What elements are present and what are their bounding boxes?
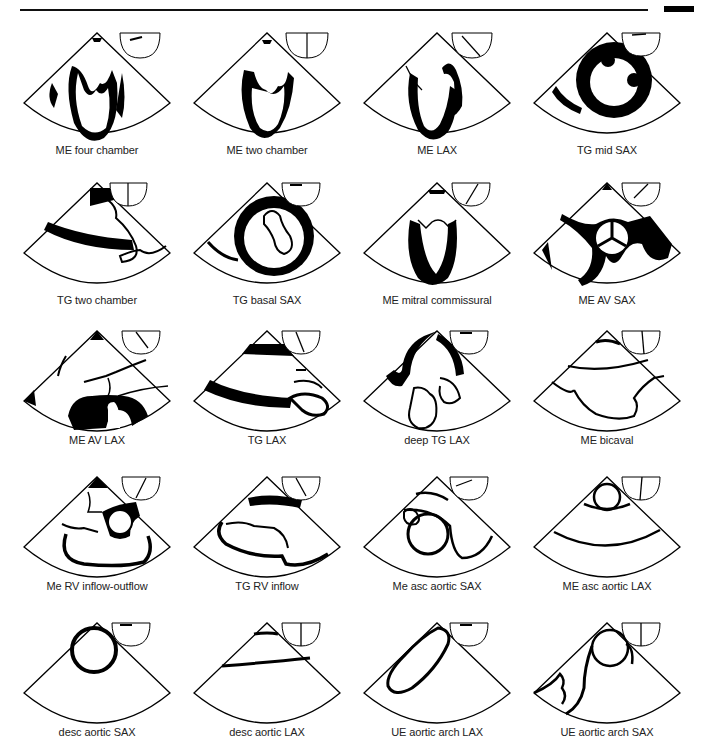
ultrasound-sector-icon: [12, 618, 182, 738]
view-label: Me asc aortic SAX: [352, 580, 522, 592]
ultrasound-sector-icon: [182, 618, 352, 738]
view-label: deep TG LAX: [352, 434, 522, 446]
tee-views-grid: ME four chamber ME two chamber ME LAX: [0, 0, 710, 753]
view-me-av-sax: ME AV SAX: [522, 178, 692, 318]
ultrasound-sector-icon: [522, 178, 692, 298]
view-desc-aortic-lax: desc aortic LAX: [182, 618, 352, 753]
view-me-rv-inflow-outflow: Me RV inflow-outflow: [12, 472, 182, 612]
view-label: UE aortic arch LAX: [352, 726, 522, 738]
view-me-four-chamber: ME four chamber: [12, 28, 182, 168]
ultrasound-sector-icon: [352, 326, 522, 446]
ultrasound-sector-icon: [182, 472, 352, 592]
ultrasound-sector-icon: [522, 326, 692, 446]
view-tg-mid-sax: TG mid SAX: [522, 28, 692, 168]
ultrasound-sector-icon: [352, 472, 522, 592]
view-me-mitral-commissural: ME mitral commissural: [352, 178, 522, 318]
view-tg-lax: TG LAX: [182, 326, 352, 466]
view-label: ME four chamber: [12, 144, 182, 156]
view-label: ME asc aortic LAX: [522, 580, 692, 592]
view-tg-basal-sax: TG basal SAX: [182, 178, 352, 318]
ultrasound-sector-icon: [522, 472, 692, 592]
view-label: TG two chamber: [12, 294, 182, 306]
ultrasound-sector-icon: [12, 472, 182, 592]
view-me-lax: ME LAX: [352, 28, 522, 168]
view-label: ME two chamber: [182, 144, 352, 156]
view-label: TG basal SAX: [182, 294, 352, 306]
view-label: ME LAX: [352, 144, 522, 156]
view-me-bicaval: ME bicaval: [522, 326, 692, 466]
ultrasound-sector-icon: [352, 178, 522, 298]
ultrasound-sector-icon: [12, 326, 182, 446]
view-tg-two-chamber: TG two chamber: [12, 178, 182, 318]
view-desc-aortic-sax: desc aortic SAX: [12, 618, 182, 753]
ultrasound-sector-icon: [352, 28, 522, 148]
view-label: TG LAX: [182, 434, 352, 446]
view-label: desc aortic SAX: [12, 726, 182, 738]
ultrasound-sector-icon: [522, 618, 692, 738]
view-deep-tg-lax: deep TG LAX: [352, 326, 522, 466]
view-label: TG mid SAX: [522, 144, 692, 156]
view-me-av-lax: ME AV LAX: [12, 326, 182, 466]
ultrasound-sector-icon: [352, 618, 522, 738]
ultrasound-sector-icon: [12, 178, 182, 298]
view-ue-aortic-arch-sax: UE aortic arch SAX: [522, 618, 692, 753]
view-me-asc-aortic-lax: ME asc aortic LAX: [522, 472, 692, 612]
view-label: ME AV SAX: [522, 294, 692, 306]
view-ue-aortic-arch-lax: UE aortic arch LAX: [352, 618, 522, 753]
ultrasound-sector-icon: [182, 178, 352, 298]
view-label: ME mitral commissural: [352, 294, 522, 306]
view-label: ME bicaval: [522, 434, 692, 446]
view-me-asc-aortic-sax: Me asc aortic SAX: [352, 472, 522, 612]
ultrasound-sector-icon: [182, 28, 352, 148]
view-label: UE aortic arch SAX: [522, 726, 692, 738]
view-label: TG RV inflow: [182, 580, 352, 592]
ultrasound-sector-icon: [522, 28, 692, 148]
view-tg-rv-inflow: TG RV inflow: [182, 472, 352, 612]
view-label: Me RV inflow-outflow: [12, 580, 182, 592]
view-me-two-chamber: ME two chamber: [182, 28, 352, 168]
ultrasound-sector-icon: [12, 28, 182, 148]
view-label: ME AV LAX: [12, 434, 182, 446]
ultrasound-sector-icon: [182, 326, 352, 446]
view-label: desc aortic LAX: [182, 726, 352, 738]
